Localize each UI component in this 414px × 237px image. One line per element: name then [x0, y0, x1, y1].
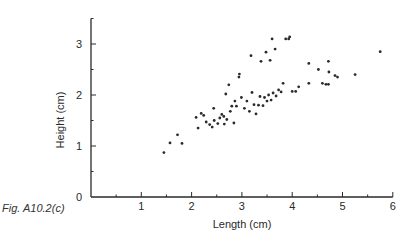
data-point [297, 85, 300, 88]
data-point [169, 142, 172, 145]
data-point [291, 90, 294, 93]
data-point [334, 74, 337, 77]
data-point [266, 100, 269, 103]
x-tick-label: 6 [390, 200, 396, 212]
data-point [317, 68, 320, 71]
data-points [163, 36, 382, 155]
data-point [253, 103, 256, 106]
data-point [202, 114, 205, 117]
data-point [238, 73, 241, 76]
x-tick-label: 4 [289, 200, 295, 212]
data-point [216, 122, 219, 125]
x-tick-label: 3 [239, 200, 245, 212]
data-point [288, 36, 291, 39]
axes: 1234560123 [76, 19, 396, 213]
data-point [325, 83, 328, 86]
data-point [211, 126, 214, 129]
x-tick-label: 5 [339, 200, 345, 212]
data-point [263, 96, 266, 99]
data-point [213, 119, 216, 122]
data-point [267, 94, 270, 97]
data-point [229, 110, 232, 113]
data-point [248, 110, 251, 113]
data-point [269, 59, 272, 62]
y-tick-label: 1 [76, 140, 82, 152]
data-point [235, 105, 238, 108]
data-point [208, 123, 211, 126]
data-point [238, 76, 241, 79]
data-point [271, 38, 274, 41]
data-point [224, 93, 227, 96]
data-point [257, 104, 260, 107]
data-point [328, 71, 331, 74]
y-tick-label: 3 [76, 38, 82, 50]
data-point [234, 100, 237, 103]
data-point [321, 82, 324, 85]
data-point [225, 118, 228, 121]
data-point [200, 112, 203, 115]
data-point [176, 133, 179, 136]
data-point [243, 107, 246, 110]
data-point [262, 104, 265, 107]
data-point [265, 51, 268, 54]
data-point [336, 76, 339, 79]
data-point [205, 121, 208, 124]
data-point [222, 115, 225, 118]
data-point [379, 50, 382, 53]
data-point [255, 113, 258, 116]
data-point [270, 99, 273, 102]
data-point [240, 96, 243, 99]
x-tick-label: 1 [138, 200, 144, 212]
data-point [251, 91, 254, 94]
data-point [307, 62, 310, 65]
data-point [246, 100, 249, 103]
data-point [250, 54, 253, 57]
data-point [327, 60, 330, 63]
data-point [163, 151, 166, 154]
y-tick-label: 2 [76, 89, 82, 101]
data-point [197, 127, 200, 130]
data-point [223, 123, 226, 126]
data-point [275, 95, 278, 98]
figure-caption: Fig. A10.2(c) [2, 202, 65, 214]
data-point [195, 116, 198, 119]
data-point [212, 107, 215, 110]
data-point [233, 122, 236, 125]
data-point [307, 82, 310, 85]
data-point [284, 38, 287, 41]
data-point [327, 83, 330, 86]
x-axis-label: Length (cm) [213, 218, 272, 230]
data-point [227, 83, 230, 86]
x-tick-label: 2 [189, 200, 195, 212]
data-point [294, 90, 297, 93]
data-point [181, 142, 184, 145]
data-point [230, 105, 233, 108]
data-point [218, 117, 221, 120]
y-tick-label: 0 [76, 191, 82, 203]
data-point [259, 95, 262, 98]
data-point [280, 91, 283, 94]
data-point [220, 113, 223, 116]
data-point [354, 73, 357, 76]
data-point [260, 60, 263, 63]
data-point [272, 92, 275, 95]
data-point [274, 48, 277, 51]
y-axis-label: Height (cm) [54, 92, 66, 149]
data-point [277, 89, 280, 92]
data-point [282, 82, 285, 85]
